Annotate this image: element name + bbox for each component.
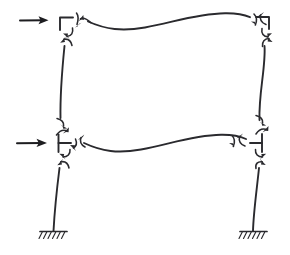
joint-lower-left-moment-arrow-4	[78, 135, 85, 147]
column-upper-right	[259, 46, 264, 120]
joint-upper-right	[251, 12, 273, 47]
column-upper-left	[60, 46, 64, 118]
joint-upper-left-moment-head-1	[75, 23, 81, 28]
joint-lower-left-moment-arrow-5	[59, 150, 70, 160]
joint-lower-left-moment-arrow-3	[70, 139, 76, 151]
joint-lower-right-moment-arrow-1	[256, 116, 266, 126]
joint-upper-right-moment-arc-3	[262, 29, 268, 37]
column-lower-left	[54, 168, 60, 231]
joint-lower-right-moment-arc-2	[256, 129, 266, 134]
joint-upper-left-moment-arc-1	[77, 13, 79, 25]
joint-upper-right-moment-arrow-4	[262, 36, 272, 47]
joint-lower-right	[229, 116, 269, 169]
beam-lower	[84, 135, 246, 152]
joint-lower-left-moment-arrow-1	[57, 119, 67, 129]
column-lower-right	[253, 168, 259, 231]
joint-upper-left-moment-arc-4	[64, 39, 72, 45]
joint-lower-left-moment-arc-1	[57, 119, 64, 127]
support-right-hatching	[239, 232, 265, 239]
joint-upper-right-moment-arrow-2	[257, 12, 266, 25]
joint-upper-left-moment-arrow-1	[75, 13, 81, 28]
joint-lower-left-moment-arc-6	[61, 162, 69, 168]
support-left	[39, 232, 67, 239]
joint-lower-left-moment-arrow-2	[57, 127, 69, 135]
joint-upper-right-moment-arrow-1	[251, 14, 258, 26]
joint-lower-right-moment-arrow-5	[255, 150, 266, 160]
joint-upper-left-moment-arrow-3	[63, 28, 73, 39]
joint-upper-left-moment-arrow-4	[60, 36, 72, 45]
joint-lower-right-moment-arrow-6	[256, 159, 266, 169]
beam-upper	[88, 13, 250, 29]
support-left-hatching	[39, 232, 65, 239]
joint-upper-left-moment-head-2	[79, 15, 84, 21]
joint-upper-right-moment-arrow-3	[262, 29, 272, 40]
lateral-load-upper	[20, 16, 49, 24]
joint-upper-left-moment-arc-3	[67, 28, 73, 37]
joint-lower-left-moment-arrow-6	[57, 159, 69, 168]
members-group	[54, 13, 265, 231]
joint-lower-left	[57, 119, 86, 169]
lateral-load-lower	[17, 139, 47, 147]
joint-lower-right-moment-arrow-3	[229, 136, 236, 148]
frame-diagram-figure	[0, 0, 290, 255]
frame-diagram-canvas	[0, 0, 290, 255]
support-right	[239, 232, 267, 239]
joint-lower-left-moment-arc-5	[63, 150, 70, 158]
joint-lower-right-moment-arrow-2	[256, 126, 269, 134]
joint-upper-left-moment-arrow-2	[79, 15, 91, 23]
joint-upper-left	[60, 13, 91, 46]
joint-upper-left-corner-stub	[60, 18, 73, 31]
